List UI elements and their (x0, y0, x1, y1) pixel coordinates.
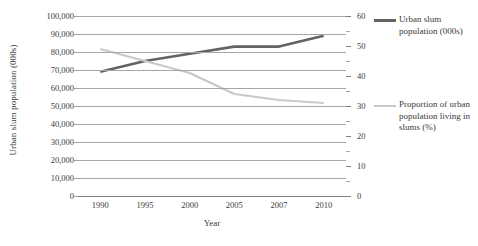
x-axis-tick-label: 2000 (181, 200, 198, 210)
y-axis-tick-label-left: 20,000 (22, 155, 74, 165)
y-axis-tick-label-left: 60,000 (22, 83, 74, 93)
gridline (78, 34, 346, 35)
gridline (78, 196, 346, 197)
axis-tick-left (74, 178, 78, 179)
legend-item-urban-slum-population: Urban slum population (000s) (374, 14, 478, 37)
axis-tick-right-major (346, 76, 351, 77)
y-axis-tick-label-left: 90,000 (22, 29, 74, 39)
y-axis-tick-label-right: 30 (357, 101, 366, 111)
gridline (78, 52, 346, 53)
axis-tick-right-major (346, 106, 351, 107)
y-axis-tick-label-left: 50,000 (22, 101, 74, 111)
axis-tick-right-major (346, 136, 351, 137)
axis-tick-right-minor (346, 61, 350, 62)
axis-tick-left (74, 142, 78, 143)
y-axis-tick-label-left: 80,000 (22, 47, 74, 57)
y-axis-tick-label-left: 0 (22, 191, 74, 201)
axis-tick-right-minor (346, 151, 350, 152)
x-axis-label: Year (78, 218, 346, 228)
legend-swatch-icon (374, 19, 396, 22)
axis-tick-right-minor (346, 121, 350, 122)
x-axis-tick-label: 2005 (226, 200, 243, 210)
y-axis-tick-label-right: 20 (357, 131, 366, 141)
y-axis-ticks-left: 100,00090,00080,00070,00060,00050,00040,… (22, 0, 74, 246)
axis-tick-right-minor (346, 91, 350, 92)
axis-tick-right-major (346, 46, 351, 47)
y-axis-tick-label-left: 30,000 (22, 137, 74, 147)
y-axis-tick-label-left: 70,000 (22, 65, 74, 75)
axis-tick-right-major (346, 166, 351, 167)
y-axis-tick-label-right: 10 (357, 161, 366, 171)
legend-swatch-icon (374, 105, 396, 107)
axis-tick-left (74, 16, 78, 17)
gridline (78, 160, 346, 161)
axis-tick-left (74, 70, 78, 71)
y-axis-label-left-text: Urban slum population (000s) (8, 44, 18, 155)
axis-tick-right-major (346, 196, 351, 197)
gridline (78, 88, 346, 89)
x-axis-tick-label: 1990 (92, 200, 109, 210)
series-line (100, 49, 323, 103)
legend-label: Proportion of urban population living in… (399, 99, 478, 134)
y-axis-tick-label-left: 10,000 (22, 173, 74, 183)
x-axis-tick-label: 1995 (137, 200, 154, 210)
axis-tick-right-minor (346, 181, 350, 182)
axis-tick-left (74, 196, 78, 197)
axis-tick-right-minor (346, 31, 350, 32)
axis-tick-left (74, 34, 78, 35)
chart-figure: Urban slum population (000s) 100,00090,0… (0, 0, 478, 246)
x-axis-tick-label: 2007 (271, 200, 288, 210)
chart-legend: Urban slum population (000s) Proportion … (374, 14, 478, 134)
plot-area (78, 16, 346, 196)
gridline (78, 124, 346, 125)
legend-item-proportion-urban-population: Proportion of urban population living in… (374, 99, 478, 134)
axis-tick-left (74, 106, 78, 107)
axis-tick-left (74, 124, 78, 125)
y-axis-label-left: Urban slum population (000s) (4, 0, 22, 200)
y-axis-tick-label-right: 0 (357, 191, 361, 201)
axis-tick-right-major (346, 16, 351, 17)
axis-tick-left (74, 52, 78, 53)
gridline (78, 178, 346, 179)
axis-tick-left (74, 160, 78, 161)
series-line (100, 36, 323, 72)
y-axis-tick-label-left: 40,000 (22, 119, 74, 129)
x-axis-tick-label: 2010 (315, 200, 332, 210)
y-axis-tick-label-right: 40 (357, 71, 366, 81)
y-axis-tick-label-right: 50 (357, 41, 366, 51)
axis-tick-left (74, 88, 78, 89)
gridline (78, 16, 346, 17)
y-axis-tick-label-left: 100,000 (22, 11, 74, 21)
gridline (78, 70, 346, 71)
gridline (78, 106, 346, 107)
y-axis-tick-label-right: 60 (357, 11, 366, 21)
gridline (78, 142, 346, 143)
legend-label: Urban slum population (000s) (399, 14, 478, 37)
